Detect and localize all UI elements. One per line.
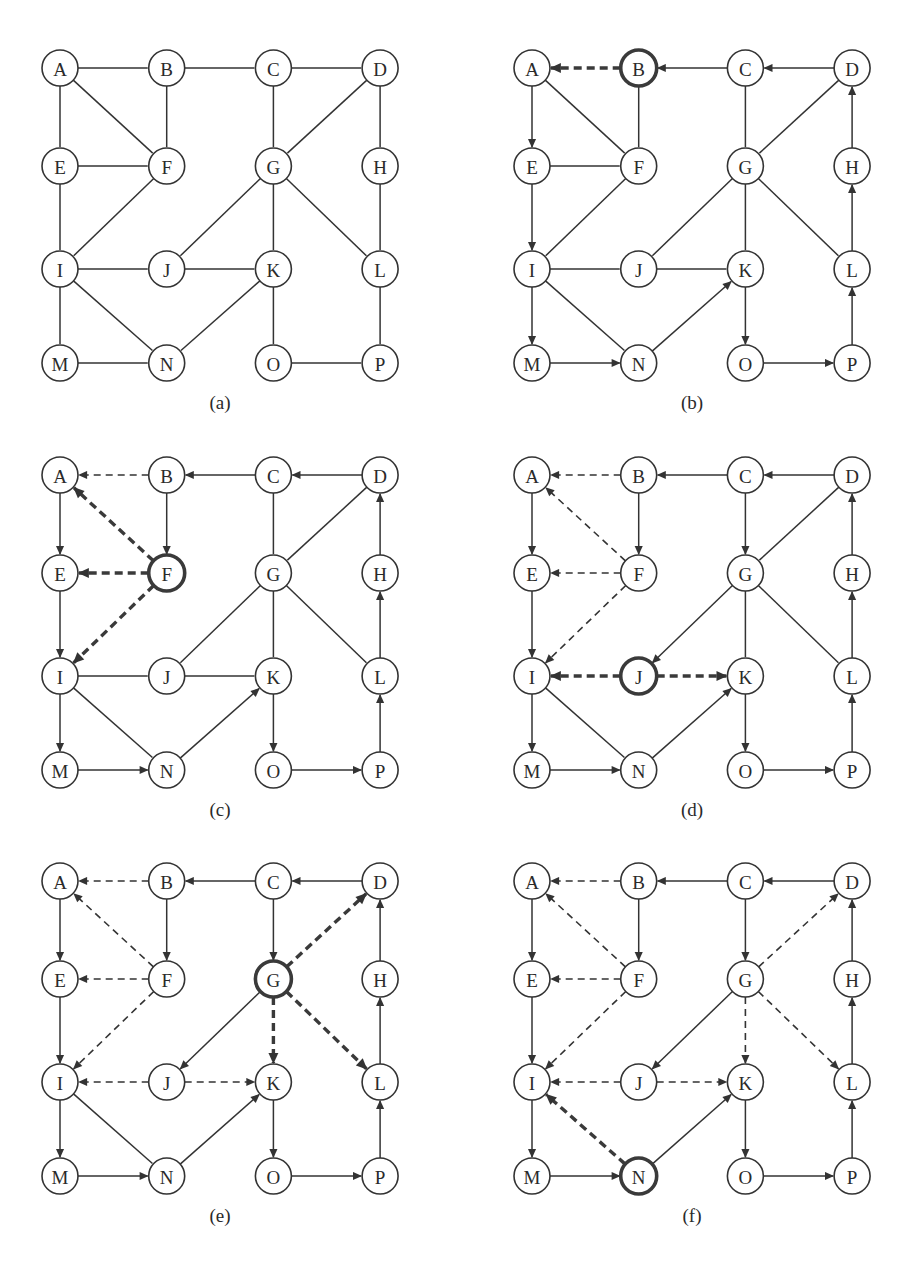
node-E: E xyxy=(42,961,78,997)
edge-G-L xyxy=(286,179,366,256)
edge-I-N xyxy=(74,688,153,758)
node-label: K xyxy=(267,1073,281,1094)
edge-G-J-tree xyxy=(180,992,260,1069)
node-label: G xyxy=(267,564,281,585)
node-label: A xyxy=(53,872,67,893)
node-label: I xyxy=(529,1073,535,1094)
node-label: B xyxy=(160,59,173,80)
node-label: A xyxy=(525,466,539,487)
node-D: D xyxy=(362,50,398,86)
node-D: D xyxy=(834,863,870,899)
node-D: D xyxy=(362,863,398,899)
node-label: N xyxy=(632,354,646,375)
graph-panel-d: ABCDEFGHIJKLMNOP(d) xyxy=(514,457,870,821)
node-label: O xyxy=(739,1167,753,1188)
node-K: K xyxy=(727,251,763,287)
node-label: L xyxy=(374,260,386,281)
edges xyxy=(60,475,380,770)
node-N: N xyxy=(149,752,185,788)
node-label: F xyxy=(161,564,172,585)
node-O: O xyxy=(727,345,763,381)
node-N: N xyxy=(621,345,657,381)
node-label: O xyxy=(267,1167,281,1188)
node-P: P xyxy=(362,1158,398,1194)
node-D: D xyxy=(362,457,398,493)
node-label: H xyxy=(845,970,859,991)
node-G: G xyxy=(727,148,763,184)
node-E: E xyxy=(514,148,550,184)
edge-G-D-hl xyxy=(287,894,366,967)
node-label: O xyxy=(267,761,281,782)
node-C: C xyxy=(727,863,763,899)
node-H: H xyxy=(834,961,870,997)
edge-G-J xyxy=(180,586,260,663)
node-C: C xyxy=(727,457,763,493)
node-O: O xyxy=(255,1158,291,1194)
node-G: G xyxy=(255,148,291,184)
edge-K-N xyxy=(181,281,260,351)
node-C: C xyxy=(255,50,291,86)
edge-G-L-dashed xyxy=(758,992,838,1069)
node-H: H xyxy=(834,555,870,591)
edges xyxy=(60,881,380,1176)
node-A: A xyxy=(42,457,78,493)
node-label: N xyxy=(632,761,646,782)
node-F: F xyxy=(149,555,185,591)
node-L: L xyxy=(834,1064,870,1100)
graph-panel-a: ABCDEFGHIJKLMNOP(a) xyxy=(42,50,398,414)
nodes: ABCDEFGHIJKLMNOP xyxy=(514,863,870,1194)
edge-I-N xyxy=(74,1094,153,1164)
node-label: N xyxy=(160,1167,174,1188)
edges xyxy=(60,68,380,363)
edge-D-G xyxy=(759,487,838,560)
node-label: C xyxy=(739,59,752,80)
node-label: C xyxy=(267,466,280,487)
node-A: A xyxy=(42,50,78,86)
node-label: L xyxy=(846,667,858,688)
node-O: O xyxy=(255,752,291,788)
edge-G-L xyxy=(758,179,838,256)
node-label: D xyxy=(373,59,387,80)
node-F: F xyxy=(621,555,657,591)
node-I: I xyxy=(42,658,78,694)
edge-F-A-hl xyxy=(74,488,153,561)
panel-caption: (c) xyxy=(210,799,231,821)
node-K: K xyxy=(727,1064,763,1100)
dfs-figure: ABCDEFGHIJKLMNOP(a)ABCDEFGHIJKLMNOP(b)AB… xyxy=(0,0,911,1264)
edge-I-N xyxy=(546,688,625,758)
node-label: G xyxy=(739,564,753,585)
edge-A-F xyxy=(73,80,152,153)
node-label: P xyxy=(847,1167,858,1188)
node-label: F xyxy=(633,970,644,991)
node-E: E xyxy=(42,555,78,591)
edge-I-N xyxy=(546,281,625,351)
edge-G-L-hl xyxy=(286,992,366,1069)
node-P: P xyxy=(834,752,870,788)
node-I: I xyxy=(514,251,550,287)
node-label: I xyxy=(529,667,535,688)
node-P: P xyxy=(834,345,870,381)
node-label: I xyxy=(57,667,63,688)
node-M: M xyxy=(42,345,78,381)
node-label: E xyxy=(54,970,66,991)
node-O: O xyxy=(727,1158,763,1194)
node-label: H xyxy=(373,157,387,178)
node-N: N xyxy=(149,345,185,381)
node-label: C xyxy=(267,59,280,80)
graph-panel-f: ABCDEFGHIJKLMNOP(f) xyxy=(514,863,870,1227)
node-F: F xyxy=(149,148,185,184)
node-label: P xyxy=(847,354,858,375)
edge-G-J-tree xyxy=(652,992,732,1069)
node-label: L xyxy=(846,1073,858,1094)
node-label: M xyxy=(524,1167,541,1188)
node-label: A xyxy=(525,59,539,80)
node-label: O xyxy=(267,354,281,375)
edge-N-I-hl xyxy=(546,1095,625,1165)
node-J: J xyxy=(621,1064,657,1100)
node-P: P xyxy=(834,1158,870,1194)
panel-caption: (d) xyxy=(681,799,703,821)
edge-G-J xyxy=(652,179,732,256)
node-L: L xyxy=(362,251,398,287)
edge-F-I-hl xyxy=(74,586,154,663)
node-label: K xyxy=(267,260,281,281)
